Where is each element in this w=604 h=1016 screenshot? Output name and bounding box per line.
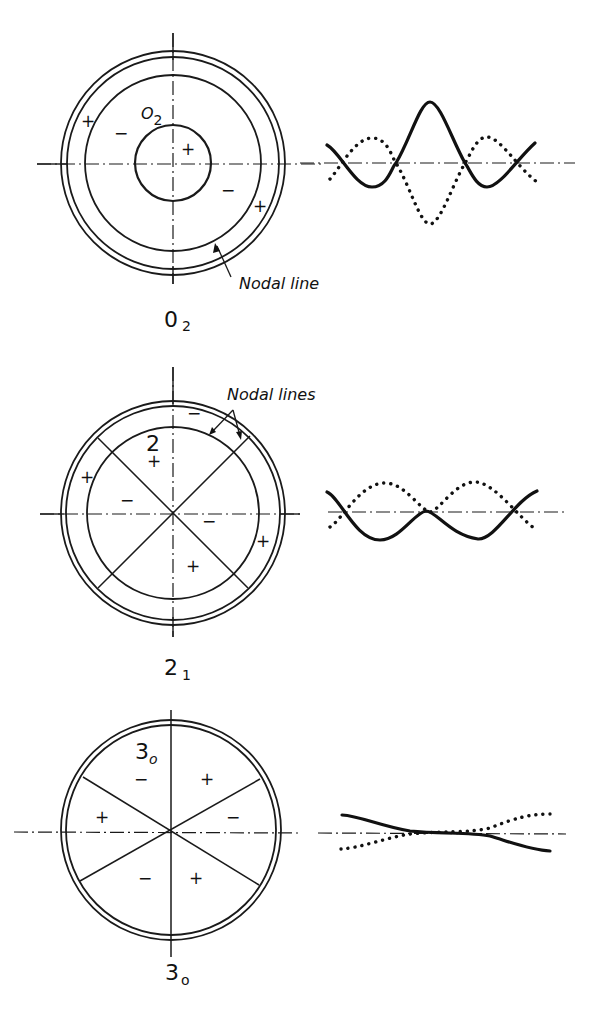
mode-label: 3o (135, 739, 158, 767)
arrow-head-icon (236, 431, 242, 440)
mode-caption: 3o (165, 960, 190, 988)
sign-plus: + (81, 111, 95, 131)
nodal-line-label: Nodal line (239, 274, 319, 293)
sign-plus: + (95, 807, 109, 827)
deflection-profile-30 (318, 814, 566, 851)
sign-plus: + (80, 467, 94, 487)
panel-mode-30: 3o − + + − − + 3o (14, 710, 566, 988)
sign-plus: + (189, 868, 203, 888)
sign-minus: − (202, 511, 216, 531)
dotted-curve (330, 482, 537, 530)
sign-plus: + (186, 556, 200, 576)
plate-diagram-21: − + + − − + + 2 Nodal lines (40, 367, 315, 637)
sign-plus: + (200, 769, 214, 789)
solid-curve (327, 102, 535, 187)
deflection-profile-21 (327, 482, 568, 540)
plate-diagram-30: 3o − + + − − + (14, 710, 300, 957)
nodal-lines-label: Nodal lines (227, 385, 315, 404)
plate-diagram-02: + − + − + O2 Nodal line (37, 33, 325, 293)
nodal-diameter (80, 779, 260, 881)
sign-minus: − (138, 868, 152, 888)
mode-caption: 21 (164, 655, 191, 683)
horizontal-axis (14, 832, 300, 833)
mode-label: O2 (141, 104, 163, 128)
sign-plus: + (256, 531, 270, 551)
sign-plus: + (253, 196, 267, 216)
sign-plus: + (181, 139, 195, 159)
sign-minus: − (226, 807, 240, 827)
solid-curve (327, 491, 537, 540)
sign-minus: − (187, 403, 201, 423)
sign-minus: − (120, 490, 134, 510)
deflection-profile-02 (300, 102, 575, 224)
sign-minus: − (114, 123, 128, 143)
mode-label: 2 (146, 431, 160, 456)
vibration-modes-figure: + − + − + O2 Nodal line 02 (0, 0, 604, 1016)
nodal-diameter (98, 436, 250, 588)
sign-minus: − (134, 769, 148, 789)
panel-mode-21: − + + − − + + 2 Nodal lines 21 (40, 367, 568, 683)
dotted-curve (330, 137, 537, 224)
panel-mode-02: + − + − + O2 Nodal line 02 (37, 33, 575, 334)
mode-caption: 02 (164, 307, 191, 334)
sign-minus: − (221, 180, 235, 200)
